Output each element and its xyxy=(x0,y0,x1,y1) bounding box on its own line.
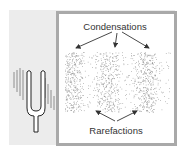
air-particle-dot xyxy=(107,103,108,104)
air-particle-dot xyxy=(79,63,80,64)
air-particle-dot xyxy=(153,89,154,90)
air-particle-dot xyxy=(84,63,85,64)
air-particle-dot xyxy=(74,103,75,104)
air-particle-dot xyxy=(68,89,69,90)
air-particle-dot xyxy=(103,110,104,111)
air-particle-dot xyxy=(81,110,82,111)
air-particle-dot xyxy=(148,63,149,64)
air-particle-dot xyxy=(68,78,69,79)
air-particle-dot xyxy=(157,97,158,98)
air-particle-dot xyxy=(113,85,114,86)
air-particle-dot xyxy=(126,94,127,95)
air-particle-dot xyxy=(73,65,74,66)
air-particle-dot xyxy=(80,109,81,110)
air-particle-dot xyxy=(127,77,128,78)
air-particle-dot xyxy=(90,94,91,95)
air-particle-dot xyxy=(144,93,145,94)
air-particle-dot xyxy=(76,109,77,110)
air-particle-dot xyxy=(96,85,97,86)
air-particle-dot xyxy=(117,90,118,91)
air-particle-dot xyxy=(73,53,74,54)
air-particle-dot xyxy=(145,97,146,98)
air-particle-dot xyxy=(119,53,120,54)
rarefactions-label: Rarefactions xyxy=(89,125,143,136)
air-particle-dot xyxy=(101,77,102,78)
air-particle-dot xyxy=(109,90,110,91)
air-particle-dot xyxy=(147,62,148,63)
air-particle-dot xyxy=(150,70,151,71)
air-particle-dot xyxy=(117,55,118,56)
air-particle-dot xyxy=(136,71,137,72)
air-particle-dot xyxy=(68,66,69,67)
air-particle-dot xyxy=(119,66,120,67)
air-particle-dot xyxy=(153,94,154,95)
air-particle-dot xyxy=(143,60,144,61)
air-particle-dot xyxy=(74,104,75,105)
air-particle-dot xyxy=(144,71,145,72)
air-particle-dot xyxy=(114,106,115,107)
air-particle-dot xyxy=(76,89,77,90)
air-particle-dot xyxy=(88,104,89,105)
air-particle-dot xyxy=(148,81,149,82)
air-particle-dot xyxy=(113,57,114,58)
air-particle-dot xyxy=(103,69,104,70)
air-particle-dot xyxy=(140,59,141,60)
air-particle-dot xyxy=(137,54,138,55)
air-particle-dot xyxy=(79,58,80,59)
air-particle-dot xyxy=(113,107,114,108)
air-particle-dot xyxy=(77,101,78,102)
air-particle-dot xyxy=(114,91,115,92)
air-particle-dot xyxy=(72,53,73,54)
air-particle-dot xyxy=(112,75,113,76)
air-particle-dot xyxy=(105,97,106,98)
air-particle-dot xyxy=(145,101,146,102)
air-particle-dot xyxy=(153,98,154,99)
air-particle-dot xyxy=(111,110,112,111)
air-particle-dot xyxy=(139,92,140,93)
air-particle-dot xyxy=(153,60,154,61)
air-particle-dot xyxy=(87,97,88,98)
air-particle-dot xyxy=(66,55,67,56)
air-particle-dot xyxy=(122,89,123,90)
air-particle-dot xyxy=(151,94,152,95)
air-particle-dot xyxy=(92,67,93,68)
air-particle-dot xyxy=(72,71,73,72)
air-particle-dot xyxy=(66,80,67,81)
air-particle-dot xyxy=(113,77,114,78)
air-particle-dot xyxy=(73,102,74,103)
air-particle-dot xyxy=(76,103,77,104)
air-particle-dot xyxy=(109,106,110,107)
condensation-arrows xyxy=(76,32,149,48)
air-particle-dot xyxy=(79,79,80,80)
air-particle-dot xyxy=(143,105,144,106)
air-particle-dot xyxy=(66,83,67,84)
air-particle-dot xyxy=(170,53,171,54)
air-particle-dot xyxy=(131,102,132,103)
air-particle-dot xyxy=(116,70,117,71)
air-particle-dot xyxy=(169,53,170,54)
air-particle-dot xyxy=(110,68,111,69)
air-particle-dot xyxy=(153,67,154,68)
air-particle-dot xyxy=(158,85,159,86)
air-particle-dot xyxy=(141,100,142,101)
air-particle-dot xyxy=(75,70,76,71)
air-particle-dot xyxy=(74,68,75,69)
air-particle-dot xyxy=(112,61,113,62)
air-particle-dot xyxy=(103,84,104,85)
air-particle-dot xyxy=(142,91,143,92)
air-particle-dot xyxy=(105,63,106,64)
air-particle-dot xyxy=(71,55,72,56)
air-particle-dot xyxy=(70,103,71,104)
air-particle-dot xyxy=(117,65,118,66)
air-particle-dot xyxy=(102,83,103,84)
air-particle-dot xyxy=(139,84,140,85)
air-particle-dot xyxy=(69,92,70,93)
air-particle-dot xyxy=(83,55,84,56)
air-particle-dot xyxy=(110,53,111,54)
air-particle-dot xyxy=(149,73,150,74)
air-particle-dot xyxy=(153,82,154,83)
air-particle-dot xyxy=(77,95,78,96)
air-particle-dot xyxy=(76,86,77,87)
air-particle-dot xyxy=(145,65,146,66)
air-particle-dot xyxy=(80,90,81,91)
